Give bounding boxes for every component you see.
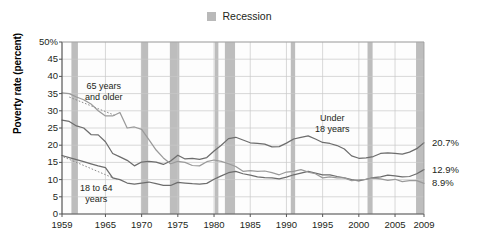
x-tick-label-2009: 2009	[404, 220, 444, 230]
plot-area	[0, 0, 479, 246]
annot-18-to-64: 18 to 64years	[80, 183, 113, 205]
y-tick-label-30: 30	[24, 106, 58, 116]
x-tick-label-1970: 1970	[122, 220, 162, 230]
annot-65-and-older: 65 yearsand older	[85, 81, 123, 103]
poverty-rate-chart: Recession Poverty rate (percent) 50%4540…	[0, 0, 479, 246]
x-tick-label-1975: 1975	[158, 220, 198, 230]
x-tick-label-1965: 1965	[85, 220, 125, 230]
annot-under-18: Under18 years	[315, 113, 350, 135]
y-tick-label-50: 50%	[24, 37, 58, 47]
y-tick-label-10: 10	[24, 175, 58, 185]
annot-65-and-older-line1: 65 years	[85, 81, 123, 92]
annot-under-18-line1: Under	[315, 113, 350, 124]
annot-18-to-64-line1: 18 to 64	[80, 183, 113, 194]
x-tick-label-1985: 1985	[230, 220, 270, 230]
y-tick-label-5: 5	[24, 192, 58, 202]
end-label-18-to-64: 12.9%	[432, 165, 459, 175]
y-tick-label-35: 35	[24, 89, 58, 99]
annot-65-and-older-line2: and older	[85, 92, 123, 103]
y-tick-label-40: 40	[24, 71, 58, 81]
x-tick-label-1959: 1959	[42, 220, 82, 230]
x-tick-label-1990: 1990	[266, 220, 306, 230]
x-tick-label-1995: 1995	[303, 220, 343, 230]
end-label-65-plus: 8.9%	[432, 178, 454, 188]
y-tick-label-0: 0	[24, 209, 58, 219]
y-tick-label-20: 20	[24, 140, 58, 150]
y-tick-label-25: 25	[24, 123, 58, 133]
x-tick-label-1980: 1980	[194, 220, 234, 230]
end-label-under-18: 20.7%	[432, 138, 459, 148]
y-tick-label-15: 15	[24, 157, 58, 167]
y-tick-label-45: 45	[24, 54, 58, 64]
annot-under-18-line2: 18 years	[315, 124, 350, 135]
x-tick-label-2000: 2000	[339, 220, 379, 230]
annot-18-to-64-line2: years	[80, 194, 113, 205]
